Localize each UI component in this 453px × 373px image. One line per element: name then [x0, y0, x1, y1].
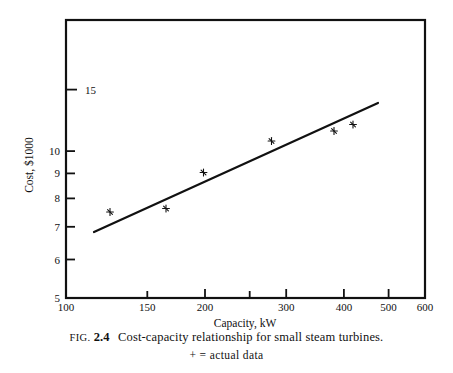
x-tick-label: 500 — [380, 301, 397, 313]
fitted-line — [94, 103, 378, 232]
x-tick-label: 300 — [278, 301, 295, 313]
x-axis-tick-labels: 100 150 200 300 400 500 600 — [58, 301, 434, 313]
y-axis-ticks — [66, 90, 77, 298]
y-tick-label: 15 — [85, 84, 97, 96]
y-tick-label: 5 — [55, 292, 61, 304]
x-axis-title: Capacity, kW — [214, 317, 277, 330]
x-axis-ticks — [66, 289, 425, 298]
plot-frame — [66, 20, 425, 298]
data-point-marker — [268, 138, 275, 145]
data-point-marker — [200, 169, 207, 176]
caption-fig-label: FIG. — [70, 332, 91, 343]
y-axis-title: Cost, $1000 — [23, 137, 36, 193]
figure-container: 100 150 200 300 400 500 600 Capacity, kW… — [0, 0, 453, 373]
caption-fig-number: 2.4 — [94, 330, 110, 344]
y-tick-label: 10 — [49, 145, 61, 157]
cost-capacity-chart: 100 150 200 300 400 500 600 Capacity, kW… — [0, 0, 453, 373]
y-axis-tick-labels: 5 6 7 8 9 10 15 — [49, 84, 97, 304]
data-point-marker — [331, 128, 338, 135]
y-tick-label: 9 — [55, 167, 61, 179]
caption-legend-note: + = actual data — [0, 349, 453, 361]
data-point-marker — [350, 121, 357, 128]
x-tick-label: 100 — [58, 301, 75, 313]
data-points — [107, 121, 357, 215]
data-point-marker — [163, 205, 170, 212]
x-tick-label: 400 — [336, 301, 353, 313]
figure-caption: FIG. 2.4 Cost-capacity relationship for … — [0, 330, 453, 361]
x-tick-label: 600 — [417, 301, 434, 313]
x-tick-label: 200 — [197, 301, 214, 313]
data-point-marker — [107, 209, 114, 216]
y-tick-label: 7 — [55, 221, 61, 233]
x-tick-label: 150 — [139, 301, 156, 313]
caption-fig-text: Cost-capacity relationship for small ste… — [118, 330, 383, 344]
caption-line-primary: FIG. 2.4 Cost-capacity relationship for … — [0, 330, 453, 345]
y-tick-label: 8 — [55, 192, 61, 204]
y-tick-label: 6 — [55, 254, 61, 266]
